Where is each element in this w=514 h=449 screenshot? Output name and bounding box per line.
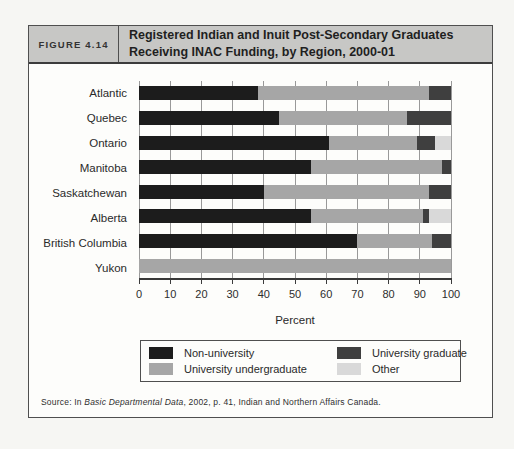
bar-segment <box>429 209 451 223</box>
bar-segment <box>435 136 451 150</box>
x-tick-mark <box>201 278 202 284</box>
category-label: Manitoba <box>29 162 127 174</box>
bar-stack <box>139 185 451 199</box>
x-axis-tick-labels: 0102030405060708090100 <box>139 288 451 302</box>
category-label: Ontario <box>29 137 127 149</box>
source-prefix: Source: In <box>41 397 84 407</box>
legend-swatch-icon <box>149 363 173 375</box>
plot-area <box>139 81 451 280</box>
category-axis-labels: AtlanticQuebecOntarioManitobaSaskatchewa… <box>29 81 133 280</box>
legend-item: Other <box>337 363 467 375</box>
bar-segment <box>139 259 451 273</box>
x-tick-label: 40 <box>258 288 270 300</box>
bar-segment <box>139 86 258 100</box>
figure-title-line1: Registered Indian and Inuit Post-Seconda… <box>129 27 484 44</box>
x-tick-mark <box>326 278 327 284</box>
bar-segment <box>139 234 357 248</box>
category-label: Saskatchewan <box>29 187 127 199</box>
x-tick-mark <box>170 278 171 284</box>
figure-number-label: FIGURE 4.14 <box>29 26 119 62</box>
x-tick-mark <box>232 278 233 284</box>
x-tick-label: 30 <box>226 288 238 300</box>
legend-label: Other <box>372 363 400 375</box>
bar-row <box>139 106 451 131</box>
source-title-italic: Basic Departmental Data <box>84 397 183 407</box>
bar-stack <box>139 209 451 223</box>
bar-segment <box>311 209 423 223</box>
bar-segment <box>139 111 279 125</box>
x-tick-label: 80 <box>382 288 394 300</box>
bar-segment <box>139 136 329 150</box>
figure-box: FIGURE 4.14 Registered Indian and Inuit … <box>28 25 493 418</box>
bar-segment <box>432 234 451 248</box>
x-tick-label: 50 <box>289 288 301 300</box>
x-tick-label: 70 <box>351 288 363 300</box>
bar-segment <box>139 185 264 199</box>
source-note: Source: In Basic Departmental Data, 2002… <box>41 397 484 407</box>
bar-stack <box>139 160 451 174</box>
bar-segment <box>329 136 416 150</box>
bar-stack <box>139 136 451 150</box>
legend-label: University graduate <box>372 347 467 359</box>
x-tick-mark <box>263 278 264 284</box>
bar-segment <box>139 160 311 174</box>
category-label: Yukon <box>29 262 127 274</box>
bar-row <box>139 155 451 180</box>
x-tick-label: 0 <box>136 288 142 300</box>
x-tick-mark <box>451 278 452 284</box>
x-tick-label: 90 <box>414 288 426 300</box>
category-label: Atlantic <box>29 87 127 99</box>
bar-segment <box>264 185 429 199</box>
bar-row <box>139 229 451 254</box>
bar-segment <box>279 111 407 125</box>
x-tick-label: 10 <box>164 288 176 300</box>
legend-swatch-icon <box>337 347 361 359</box>
x-tick-mark <box>357 278 358 284</box>
bar-row <box>139 180 451 205</box>
bar-row <box>139 204 451 229</box>
legend-item: University undergraduate <box>149 363 337 375</box>
x-tick-label: 100 <box>442 288 460 300</box>
x-tick-label: 60 <box>320 288 332 300</box>
bar-segment <box>311 160 442 174</box>
bar-stack <box>139 86 451 100</box>
bar-segment <box>407 111 451 125</box>
bar-segment <box>429 86 451 100</box>
legend-label: Non-university <box>184 347 254 359</box>
bar-segment <box>429 185 451 199</box>
bar-segment <box>139 209 311 223</box>
category-label: Alberta <box>29 212 127 224</box>
figure-header: FIGURE 4.14 Registered Indian and Inuit … <box>29 26 492 64</box>
x-tick-mark <box>388 278 389 284</box>
category-label: British Columbia <box>29 237 127 249</box>
legend-swatch-icon <box>149 347 173 359</box>
x-tick-mark <box>295 278 296 284</box>
category-label: Quebec <box>29 112 127 124</box>
source-suffix: , 2002, p. 41, Indian and Northern Affai… <box>183 397 380 407</box>
bar-segment <box>442 160 451 174</box>
bar-segment <box>357 234 432 248</box>
bar-row <box>139 81 451 106</box>
x-tick-mark <box>139 278 140 284</box>
legend-item: Non-university <box>149 347 337 359</box>
x-tick-label: 20 <box>195 288 207 300</box>
bar-segment <box>258 86 430 100</box>
figure-title-line2: Receiving INAC Funding, by Region, 2000-… <box>129 44 484 61</box>
bar-stack <box>139 259 451 273</box>
bar-row <box>139 253 451 278</box>
figure-title: Registered Indian and Inuit Post-Seconda… <box>119 26 492 62</box>
legend-item: University graduate <box>337 347 467 359</box>
legend: Non-universityUniversity undergraduateUn… <box>140 340 461 382</box>
legend-label: University undergraduate <box>184 363 307 375</box>
x-tick-mark <box>419 278 420 284</box>
legend-swatch-icon <box>337 363 361 375</box>
bar-stack <box>139 234 451 248</box>
bar-row <box>139 130 451 155</box>
bar-stack <box>139 111 451 125</box>
x-axis-title: Percent <box>139 314 451 326</box>
bar-segment <box>417 136 436 150</box>
